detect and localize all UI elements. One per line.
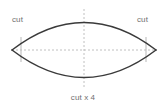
label-cut-bottom: cut x 4 xyxy=(0,93,166,102)
diagram-canvas: cut cut cut x 4 xyxy=(0,0,166,109)
label-cut-right: cut xyxy=(137,15,148,24)
label-cut-left: cut xyxy=(12,15,23,24)
